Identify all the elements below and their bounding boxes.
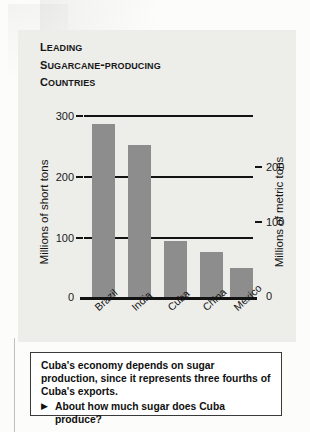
plot-area: 300 200 100 0 200 100 0 Millions of shor…	[18, 30, 296, 342]
page-edge-line	[14, 338, 15, 432]
scan-artifact	[40, 0, 240, 30]
y-axis-left-dash-300	[76, 115, 83, 117]
caption-box: Cuba's economy depends on sugar producti…	[30, 352, 282, 416]
y-axis-left-title: Millions of short tons	[38, 152, 50, 272]
caption-body: Cuba's economy depends on sugar producti…	[41, 359, 273, 398]
y-axis-right-tick-100: 100	[266, 216, 306, 228]
y-axis-left-tick-300: 300	[32, 110, 74, 122]
y-axis-left-tick-0: 0	[32, 291, 74, 303]
y-axis-right-dash-200	[255, 166, 262, 168]
y-axis-right-tick-200: 200	[266, 161, 306, 173]
caption-question: About how much sugar does Cuba produce?	[55, 400, 273, 426]
y-axis-right-tick-0: 0	[266, 290, 306, 302]
chart-panel: Leading Sugarcane-Producing Countries 30…	[18, 30, 296, 342]
triangle-bullet-icon: ▶	[41, 400, 48, 413]
bar-india	[128, 145, 151, 297]
y-axis-left-dash-100	[76, 237, 83, 239]
bar-brazil	[92, 124, 115, 297]
y-axis-right-title: Millions of metric tons	[273, 147, 285, 277]
gridline-300	[84, 115, 253, 117]
textbook-page: Leading Sugarcane-Producing Countries 30…	[0, 0, 310, 432]
caption-question-row: ▶ About how much sugar does Cuba produce…	[41, 400, 273, 426]
y-axis-right-dash-100	[255, 221, 262, 223]
y-axis-left-dash-200	[76, 176, 83, 178]
